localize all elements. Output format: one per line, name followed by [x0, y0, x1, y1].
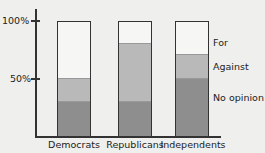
x-label-independents: Independents [158, 139, 228, 150]
x-axis [35, 136, 221, 138]
segment-against [119, 44, 151, 102]
legend-against: Against [213, 61, 249, 72]
segment-no-opinion [176, 79, 208, 136]
segment-no-opinion [119, 102, 151, 136]
segment-against [176, 55, 208, 79]
bar-republicans [118, 21, 152, 136]
segment-for [58, 22, 90, 79]
y-tick-label-50: 50% [10, 74, 40, 84]
y-axis [35, 9, 37, 137]
y-tick-label-100: 100% [2, 16, 32, 26]
segment-for [119, 22, 151, 44]
x-label-democrats: Democrats [39, 139, 109, 150]
legend-no-opinion: No opinion [213, 92, 264, 103]
bar-democrats [57, 21, 91, 136]
segment-against [58, 79, 90, 102]
legend-for: For [213, 37, 228, 48]
segment-no-opinion [58, 102, 90, 136]
y-tick-100 [31, 20, 40, 22]
bar-independents [175, 21, 209, 136]
stacked-bar-chart: 100% 50% Democrats Republicans Independe… [0, 0, 265, 153]
segment-for [176, 22, 208, 55]
